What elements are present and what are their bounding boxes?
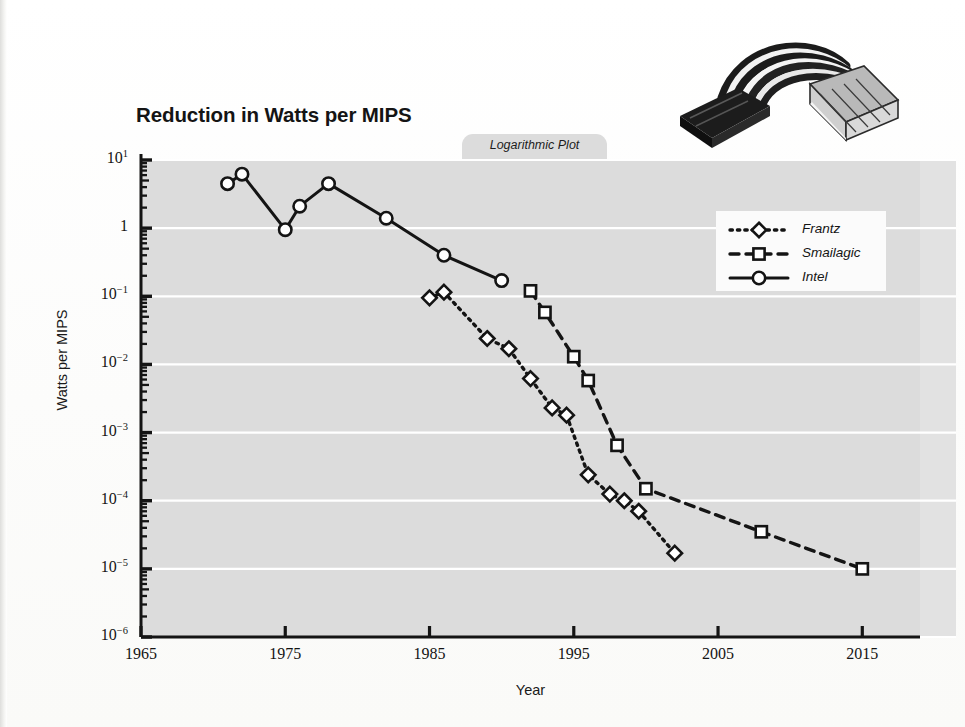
legend-entry-intel[interactable]: Intel [716,266,886,290]
x-tick-label: 1995 [539,645,609,663]
legend-swatch-diamond-icon [728,218,790,242]
legend-entry-frantz[interactable]: Frantz [716,218,886,242]
series-smailagic [525,285,868,574]
x-tick-label: 1965 [106,645,176,663]
x-tick-label: 1985 [395,645,465,663]
legend-label: Smailagic [802,245,861,260]
figure-page: Logarithmic Plot Reduction in Watts per … [0,0,965,727]
legend-entry-smailagic[interactable]: Smailagic [716,242,886,266]
x-tick-label: 2005 [683,645,753,663]
legend: FrantzSmailagicIntel [716,211,886,291]
series-intel [221,168,507,287]
x-tick-label: 1975 [250,645,320,663]
legend-swatch-circle-icon [728,266,790,290]
legend-label: Frantz [802,221,840,236]
x-tick-label: 2015 [827,645,897,663]
sata-power-adapter-photo [660,22,950,157]
legend-swatch-square-icon [728,242,790,266]
legend-label: Intel [802,269,828,284]
